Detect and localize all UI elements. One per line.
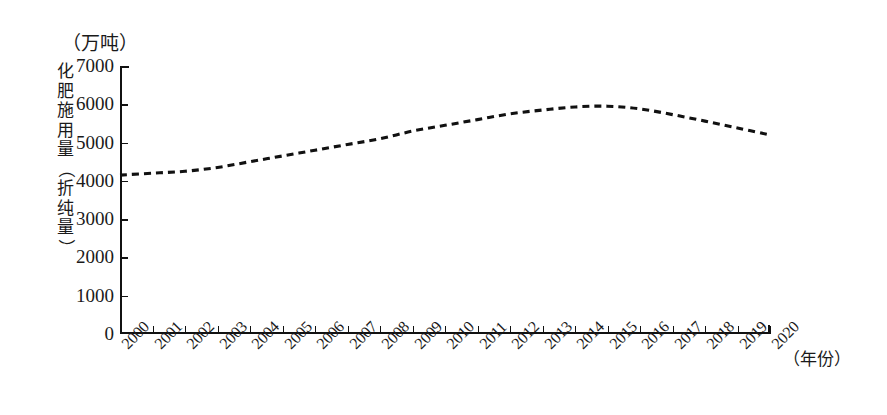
x-tick-mark	[543, 326, 544, 334]
y-tick-mark	[120, 257, 128, 258]
y-tick-label: 5000	[56, 132, 114, 154]
x-tick-mark	[640, 326, 641, 334]
x-tick-mark	[608, 326, 609, 334]
x-tick-mark	[575, 326, 576, 334]
y-tick-label: 6000	[56, 93, 114, 115]
y-tick-mark	[120, 181, 128, 182]
y-tick-label: 1000	[56, 285, 114, 307]
y-tick-label: 0	[56, 323, 114, 345]
x-tick-mark	[478, 326, 479, 334]
y-tick-mark	[120, 143, 128, 144]
y-tick-mark	[120, 219, 128, 220]
x-tick-mark	[315, 326, 316, 334]
y-tick-mark	[120, 296, 128, 297]
x-tick-mark	[770, 326, 771, 334]
y-tick-label: 3000	[56, 208, 114, 230]
x-tick-mark	[738, 326, 739, 334]
x-tick-mark	[705, 326, 706, 334]
plot-area: 2000200120022003200420052006200720082009…	[120, 66, 770, 334]
x-tick-mark	[413, 326, 414, 334]
x-tick-mark	[283, 326, 284, 334]
x-axis-title: （年份）	[783, 345, 851, 370]
x-tick-mark	[380, 326, 381, 334]
x-tick-mark	[218, 326, 219, 334]
x-tick-mark	[445, 326, 446, 334]
x-tick-mark	[510, 326, 511, 334]
y-tick-label: 4000	[56, 170, 114, 192]
y-tick-label: 2000	[56, 246, 114, 268]
x-tick-mark	[250, 326, 251, 334]
chart-figure: （万吨） 化肥施用量（折纯量） 010002000300040005000600…	[0, 0, 887, 415]
x-tick-mark	[153, 326, 154, 334]
y-axis-tick-labels: 01000200030004000500060007000	[56, 0, 114, 415]
x-tick-mark	[673, 326, 674, 334]
y-tick-mark	[120, 104, 128, 105]
series-line	[120, 66, 770, 334]
y-tick-label: 7000	[56, 55, 114, 77]
x-tick-mark	[348, 326, 349, 334]
x-tick-mark	[120, 326, 121, 334]
x-tick-mark	[185, 326, 186, 334]
